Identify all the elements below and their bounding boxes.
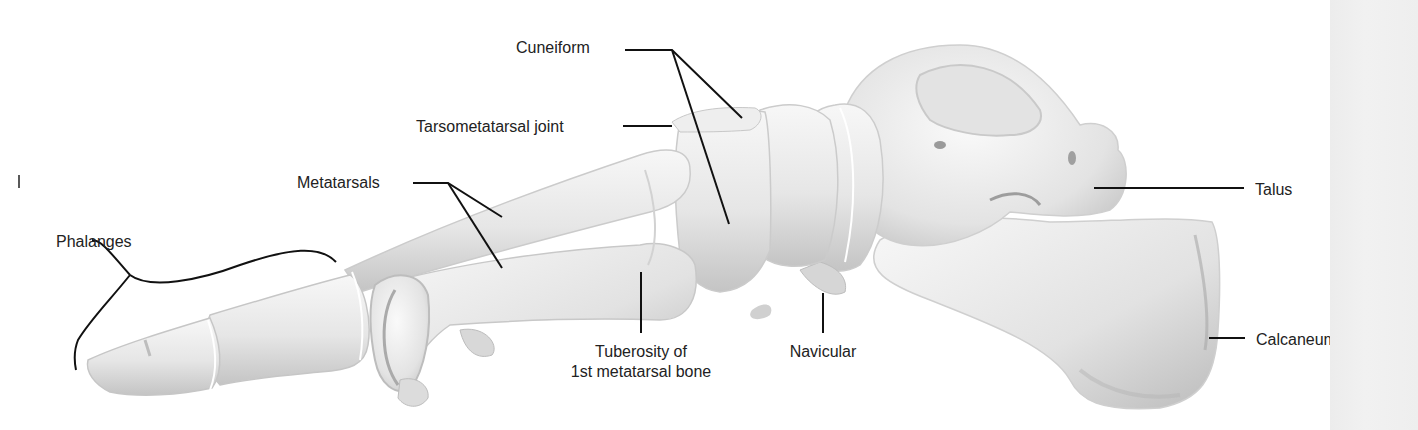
sesamoid-bone (398, 379, 428, 407)
label-metatarsals: Metatarsals (297, 173, 380, 192)
label-navicular: Navicular (790, 342, 857, 361)
label-tuberosity-line2: 1st metatarsal bone (571, 362, 712, 381)
proximal-phalanx-bone (205, 275, 369, 385)
label-talus: Talus (1255, 180, 1292, 199)
label-calcaneum: Calcaneum (1256, 330, 1337, 349)
diagram-canvas: Cuneiform Tarsometatarsal joint Metatars… (0, 0, 1330, 430)
label-tuberosity-line1: Tuberosity of (595, 342, 687, 361)
side-panel-strip (1330, 0, 1418, 430)
metatarsal-head (370, 275, 429, 391)
distal-phalanx-bone (87, 318, 219, 395)
calcaneum-bone (874, 218, 1220, 409)
label-tarsometatarsal-joint: Tarsometatarsal joint (416, 117, 564, 136)
label-phalanges: Phalanges (56, 232, 132, 251)
label-cuneiform: Cuneiform (516, 38, 590, 57)
cuneiform-bone-lateral (672, 108, 761, 132)
